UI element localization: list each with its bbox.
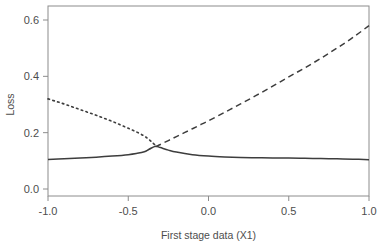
x-tick-label-0: -1.0 xyxy=(39,205,58,217)
y-tick-label-3: 0.6 xyxy=(24,14,39,26)
y-tick-label-2: 0.4 xyxy=(24,70,39,82)
dashed-series xyxy=(156,26,369,147)
x-axis-title: First stage data (X1) xyxy=(161,229,256,241)
x-tick-label-3: 0.5 xyxy=(281,205,296,217)
axis-labels-layer: -1.0-0.50.00.51.00.00.20.40.6First stage… xyxy=(4,14,377,241)
solid-series xyxy=(48,146,369,160)
y-tick-label-0: 0.0 xyxy=(24,183,39,195)
x-tick-label-1: -0.5 xyxy=(119,205,138,217)
y-axis-title: Loss xyxy=(4,93,16,115)
x-tick-label-2: 0.0 xyxy=(201,205,216,217)
axes-layer xyxy=(43,6,369,201)
figure-container: -1.0-0.50.00.51.00.00.20.40.6First stage… xyxy=(0,0,380,249)
x-tick-label-4: 1.0 xyxy=(361,205,376,217)
line-chart: -1.0-0.50.00.51.00.00.20.40.6First stage… xyxy=(0,0,380,249)
y-tick-label-1: 0.2 xyxy=(24,127,39,139)
plot-frame xyxy=(48,6,369,196)
dotted-series xyxy=(48,99,156,145)
series-layer xyxy=(48,26,369,160)
